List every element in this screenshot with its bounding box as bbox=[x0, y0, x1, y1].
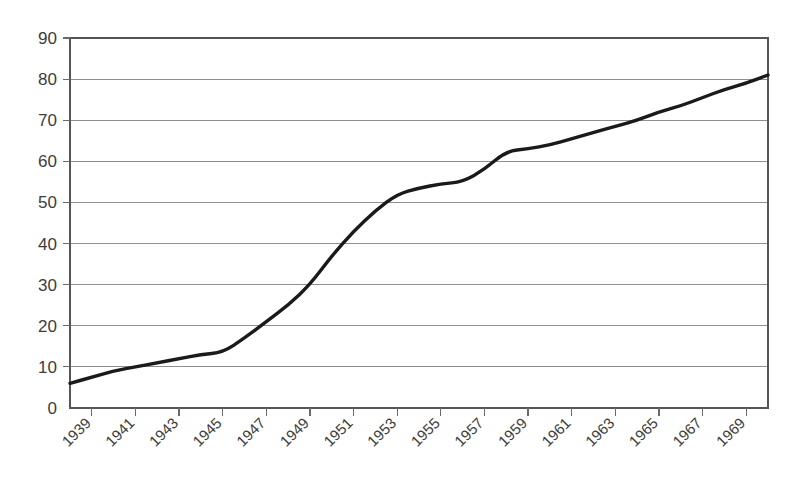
y-axis-tick-label: 30 bbox=[38, 276, 57, 295]
line-chart-figure: 0102030405060708090 19391941194319451947… bbox=[0, 0, 800, 494]
y-axis-tick-label: 20 bbox=[38, 317, 57, 336]
y-axis-tick-label: 40 bbox=[38, 235, 57, 254]
y-axis-tick-label: 70 bbox=[38, 111, 57, 130]
y-axis-tick-label: 90 bbox=[38, 29, 57, 48]
y-axis-tick-label: 80 bbox=[38, 70, 57, 89]
y-axis-tick-label: 10 bbox=[38, 358, 57, 377]
chart-canvas: 0102030405060708090 19391941194319451947… bbox=[0, 0, 800, 494]
y-axis-tick-label: 50 bbox=[38, 193, 57, 212]
y-axis-tick-label: 0 bbox=[48, 399, 57, 418]
y-axis-tick-label: 60 bbox=[38, 152, 57, 171]
